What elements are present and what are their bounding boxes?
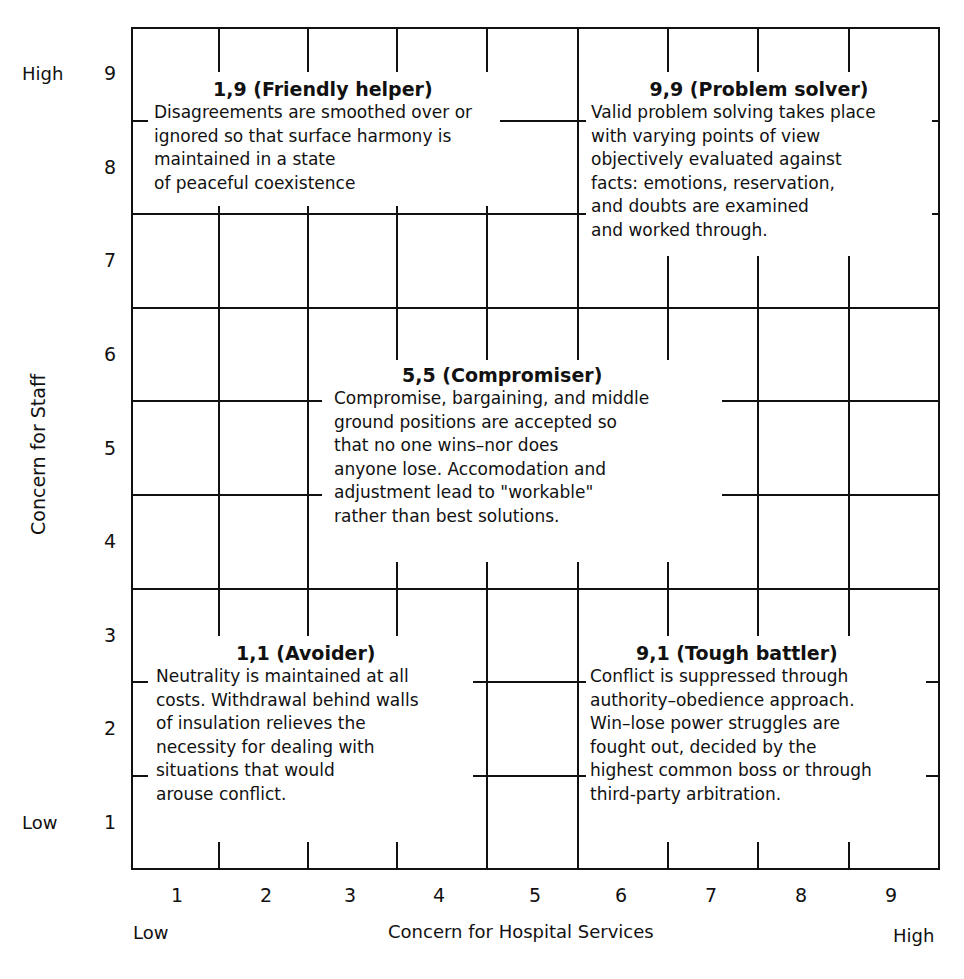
- style-title: 5,5 (Compromiser): [322, 364, 722, 387]
- y-axis-title: Concern for Staff: [27, 375, 49, 535]
- style-title: 1,1 (Avoider): [148, 642, 473, 665]
- style-box-tough-battler: 9,1 (Tough battler) Conflict is suppress…: [586, 636, 926, 842]
- x-tick: 7: [696, 884, 726, 906]
- style-description: Neutrality is maintained at all costs. W…: [148, 665, 473, 806]
- y-tick: 6: [95, 343, 125, 365]
- style-box-compromiser: 5,5 (Compromiser) Compromise, bargaining…: [322, 360, 722, 562]
- x-tick: 6: [606, 884, 636, 906]
- style-title: 9,9 (Problem solver): [586, 78, 932, 101]
- x-tick: 8: [786, 884, 816, 906]
- style-box-avoider: 1,1 (Avoider) Neutrality is maintained a…: [148, 636, 473, 842]
- y-tick: 2: [95, 717, 125, 739]
- y-tick: 8: [95, 156, 125, 178]
- y-tick: 4: [95, 530, 125, 552]
- style-description: Disagreements are smoothed over or ignor…: [148, 101, 500, 195]
- style-description: Valid problem solving takes place with v…: [586, 101, 932, 242]
- grid-line-h: [131, 588, 940, 590]
- x-tick: 3: [335, 884, 365, 906]
- y-tick: 5: [95, 437, 125, 459]
- x-tick: 4: [424, 884, 454, 906]
- x-tick: 2: [251, 884, 281, 906]
- x-low-label: Low: [133, 922, 168, 943]
- x-high-label: High: [893, 925, 934, 946]
- x-tick: 5: [520, 884, 550, 906]
- style-title: 1,9 (Friendly helper): [173, 78, 500, 101]
- style-description: Conflict is suppressed through authority…: [586, 665, 926, 806]
- y-tick: 1: [95, 811, 125, 833]
- x-tick: 9: [876, 884, 906, 906]
- y-tick: 9: [95, 62, 125, 84]
- style-title: 9,1 (Tough battler): [586, 642, 926, 665]
- y-high-label: High: [22, 63, 63, 84]
- style-description: Compromise, bargaining, and middle groun…: [322, 387, 722, 528]
- x-tick: 1: [162, 884, 192, 906]
- grid-line-h: [131, 307, 940, 309]
- y-low-label: Low: [22, 812, 57, 833]
- style-box-problem-solver: 9,9 (Problem solver) Valid problem solvi…: [586, 72, 932, 256]
- y-tick: 3: [95, 624, 125, 646]
- y-tick: 7: [95, 249, 125, 271]
- x-axis-title: Concern for Hospital Services: [388, 921, 654, 942]
- style-box-friendly-helper: 1,9 (Friendly helper) Disagreements are …: [148, 72, 500, 206]
